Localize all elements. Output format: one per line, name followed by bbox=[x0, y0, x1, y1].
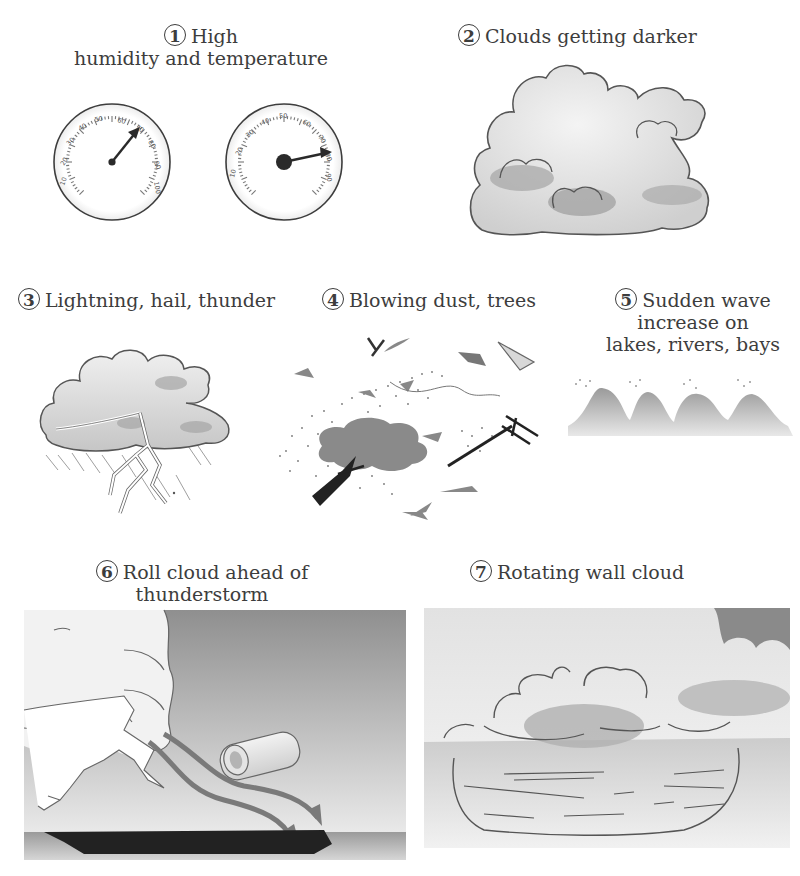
caption-4: 4Blowing dust, trees bbox=[322, 288, 536, 311]
step-number-4: 4 bbox=[322, 288, 344, 310]
caption-2: 2Clouds getting darker bbox=[458, 24, 697, 47]
caption-1: 1High humidity and temperature bbox=[70, 24, 332, 69]
waves-icon bbox=[568, 376, 793, 436]
caption-7: 7Rotating wall cloud bbox=[470, 560, 684, 583]
svg-text:50: 50 bbox=[94, 115, 104, 124]
darkening-cloud-icon bbox=[462, 60, 722, 235]
wind-debris-tree-icon bbox=[272, 316, 552, 516]
step-number-6: 6 bbox=[96, 560, 118, 582]
caption-3: 3Lightning, hail, thunder bbox=[18, 288, 275, 311]
wall-cloud-icon bbox=[424, 608, 790, 848]
hygrometer-gauge-icon: 10 20 30 40 50 60 70 80 90 100 bbox=[50, 100, 174, 224]
thermometer-gauge-icon: 10 20 30 40 50 60 70 80 90 bbox=[222, 100, 346, 224]
step-number-2: 2 bbox=[458, 24, 480, 46]
step-number-1: 1 bbox=[164, 24, 186, 46]
svg-text:90: 90 bbox=[324, 173, 333, 183]
step-number-3: 3 bbox=[18, 288, 40, 310]
caption-5: 5Sudden wave increase on lakes, rivers, … bbox=[598, 288, 788, 355]
roll-cloud-icon bbox=[24, 610, 406, 860]
step-number-5: 5 bbox=[615, 288, 637, 310]
caption-6: 6Roll cloud ahead of thunderstorm bbox=[84, 560, 320, 605]
thunderstorm-lightning-icon bbox=[36, 325, 236, 525]
step-number-7: 7 bbox=[470, 560, 492, 582]
